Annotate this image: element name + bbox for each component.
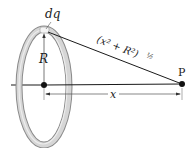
point-p-dot <box>179 81 185 87</box>
label-r: R <box>38 52 48 66</box>
dq-element <box>40 27 49 33</box>
label-p: P <box>178 66 186 79</box>
label-x: x <box>110 88 117 101</box>
label-dq: dq <box>45 7 61 21</box>
axis-line <box>44 84 182 85</box>
label-distance-exponent: ½ <box>145 51 154 61</box>
ring-center-dot <box>41 82 47 88</box>
ring-charge-diagram: dq R (x² + R²) ½ x P <box>0 0 195 148</box>
label-distance: (x² + R²) <box>95 34 140 60</box>
